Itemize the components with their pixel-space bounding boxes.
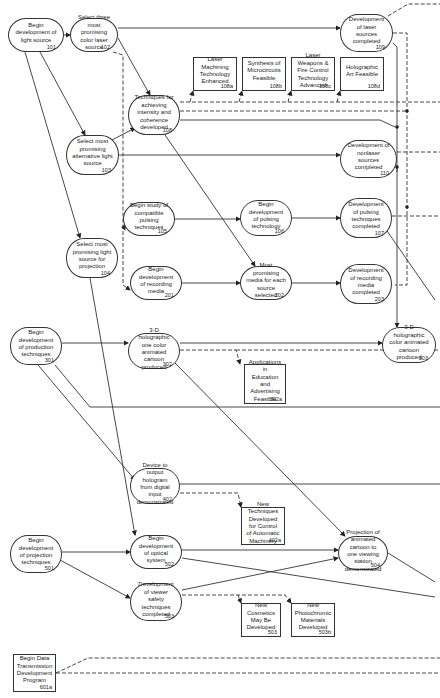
edge-601a-top [56,658,440,673]
node-504: Projection of animated cartoon to one vi… [338,536,388,570]
node-108a: Laser Machining Technology Enhanced 108a [193,57,237,91]
edge-103-108 [112,128,135,140]
node-110: Development of nonlaser sources complete… [340,140,397,178]
node-502: Begin development of optical system 502 [130,535,182,569]
node-108d: Holographic Art Feasible 108d [340,57,384,91]
node-203: Development of recording media completed… [340,264,392,304]
node-number: 106 [275,228,284,234]
node-108c: Laser Weapons & Fire Control Technology … [291,57,335,91]
node-108b: Synthesis of Microcircuits Feasible 108b [242,57,286,91]
node-503b: New Photochromic Materials Developed 503… [291,603,335,637]
edge-301-402 [38,365,135,480]
node-107: Development of pulsing techniques comple… [340,198,392,238]
edge-101-103 [40,52,85,135]
node-302a: Applications in Education and Advertisin… [244,364,286,404]
node-303: 3-D holographic color animated cartoon p… [382,327,436,363]
edge-109-dashed-out [388,4,440,16]
node-text: Laser Machining Technology Enhanced [198,56,232,86]
node-number: 503b [319,629,331,635]
node-number: 107 [375,230,384,236]
node-text: Select most promising light source for p… [72,241,112,271]
node-text: Begin development of projection techniqu… [16,537,56,567]
edge-302-302a [180,350,240,364]
node-text: Techniques for achieving intensity and c… [134,94,174,131]
node-103: Select most promising alternative light … [66,135,119,175]
node-number: 504 [371,562,380,568]
node-number: 503 [165,613,174,619]
node-301: Begin development of production techniqu… [10,327,62,365]
node-109: Development of laser sources completed 1… [340,14,393,52]
node-503a: New Cosmetics May Be Developed 503 [241,603,281,637]
node-text: Development of pulsing techniques comple… [346,201,386,231]
node-number: 105 [158,228,167,234]
node-text: Select most promising alternative light … [72,138,113,168]
node-number: 101 [47,44,56,50]
node-number: 103 [102,167,111,173]
node-105: Begin study of compatible pulsing techni… [123,202,175,236]
node-104: Select most promising light source for p… [66,238,118,278]
edge-109-303 [393,43,397,327]
node-number: 502 [165,561,174,567]
node-number: 402a [269,537,281,543]
node-number: 109 [376,44,385,50]
node-number: 501 [45,565,54,571]
node-text: Development of laser sources completed [346,16,387,46]
node-number: 601a [40,684,52,690]
node-number: 110 [380,170,389,176]
edge-104-502 [90,278,135,535]
node-text: New Cosmetics May Be Developed [246,602,276,632]
node-503: Development of viewer safety techniques … [130,583,182,621]
node-number: 503 [268,629,277,635]
edge-503-504 [182,558,338,590]
node-number: 201 [165,292,174,298]
edge-102-201 [123,225,130,290]
edge-108-109 [180,120,395,127]
connector-layer [0,0,440,698]
edge-504-out [388,553,435,582]
node-101: Begin development of light source 101 [8,18,64,52]
node-number: 402 [163,496,172,502]
node-text: Begin development of pulsing technology [246,201,286,231]
node-text: New Photochromic Materials Developed [295,602,332,632]
node-number: 102 [101,44,110,50]
node-202: Most promising media for each source sel… [240,266,292,300]
node-text: Synthesis of Microcircuits Feasible [247,60,281,82]
edge-501-503 [60,560,130,598]
node-402a: New Techniques Developed for Control of … [241,507,285,545]
edge-107-out [385,228,435,300]
node-number: 203 [375,296,384,302]
node-number: 303 [419,355,428,361]
node-number: 202 [275,292,284,298]
edge-503-503a [238,595,241,603]
node-102: Select three most promising color laser … [70,18,118,52]
node-number: 108b [270,83,282,89]
node-number: 104 [101,270,110,276]
node-text: Development of recording media completed [346,267,386,297]
edge-402-402a [180,493,241,507]
node-text: Begin development of production techniqu… [16,329,56,359]
node-number: 108a [221,83,233,89]
node-501: Begin development of projection techniqu… [10,535,62,573]
node-302: 3-D holographic one color animated carto… [128,333,180,369]
node-number: 108d [368,83,380,89]
node-108: Techniques for achieving intensity and c… [128,95,180,135]
node-number: 108c [319,83,331,89]
node-number: 108 [163,127,172,133]
node-text: Begin Data Transmission Development Prog… [17,655,52,685]
node-201: Begin development of recording media 201 [130,266,182,300]
node-402: Device to output hologram from digital i… [130,468,180,504]
node-number: 302a [270,396,282,402]
node-601a: Begin Data Transmission Development Prog… [13,654,56,692]
node-text: Holographic Art Feasible [345,64,379,79]
node-number: 301 [45,357,54,363]
node-106: Begin development of pulsing technology … [240,200,292,236]
node-text: Development of nonlaser sources complete… [346,142,391,172]
node-text: Begin development of light source [14,22,58,44]
node-number: 302 [163,361,172,367]
